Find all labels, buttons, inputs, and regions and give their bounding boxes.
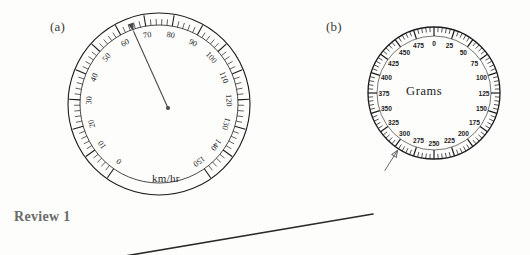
svg-text:0: 0 [432,40,436,47]
page-canvas: (a) (b) 01020304050607080901001101201301… [0,0,530,255]
diagonal-rule [125,214,373,255]
svg-text:50: 50 [101,51,113,63]
svg-text:30: 30 [84,96,93,105]
figure-label-a: (a) [50,19,65,35]
svg-text:225: 225 [444,137,455,144]
svg-text:400: 400 [381,74,392,81]
scale-dial-center-label: Grams [406,84,442,99]
svg-text:140: 140 [209,137,223,152]
svg-text:0: 0 [115,156,124,166]
svg-text:50: 50 [460,49,468,56]
svg-text:90: 90 [187,37,199,49]
svg-text:60: 60 [119,37,131,49]
svg-text:110: 110 [217,70,230,85]
svg-text:70: 70 [142,30,152,40]
svg-text:150: 150 [192,154,207,168]
svg-text:275: 275 [413,137,424,144]
figure-label-b: (b) [326,19,342,35]
svg-text:450: 450 [399,49,410,56]
svg-text:80: 80 [166,30,176,40]
svg-text:20: 20 [86,118,97,128]
svg-text:120: 120 [224,94,234,107]
svg-text:375: 375 [378,90,389,97]
svg-text:10: 10 [96,139,108,151]
svg-text:100: 100 [476,74,487,81]
svg-text:40: 40 [89,72,100,83]
svg-text:425: 425 [388,60,399,67]
speedometer-gauge: 0102030405060708090100110120130140150 [68,13,250,195]
svg-text:300: 300 [399,130,410,137]
svg-text:75: 75 [471,60,479,67]
svg-text:350: 350 [381,105,392,112]
svg-text:150: 150 [476,105,487,112]
svg-text:130: 130 [220,117,232,131]
svg-text:250: 250 [428,140,439,147]
svg-text:25: 25 [446,42,454,49]
svg-text:325: 325 [388,119,399,126]
svg-text:175: 175 [469,119,480,126]
svg-text:200: 200 [458,130,469,137]
svg-text:475: 475 [413,42,424,49]
svg-text:100: 100 [204,50,219,65]
speedometer-unit-label: km/hr [152,172,180,184]
review-caption: Review 1 [14,209,70,225]
gauges-illustration: 0102030405060708090100110120130140150 02… [0,0,530,255]
svg-text:125: 125 [478,90,489,97]
